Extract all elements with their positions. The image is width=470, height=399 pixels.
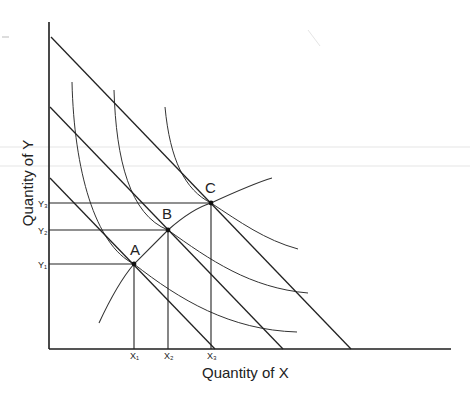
y-tick-2: Y₂ <box>38 226 48 236</box>
y-tick-3: Y₃ <box>38 199 48 209</box>
point-b-label: B <box>162 205 172 222</box>
point-b <box>166 228 171 233</box>
point-a-label: A <box>130 241 140 258</box>
x-axis-title: Quantity of X <box>202 364 289 381</box>
x-tick-2: X₂ <box>164 351 174 361</box>
x-tick-3: X₃ <box>207 351 217 361</box>
y-tick-1: Y₁ <box>38 260 47 270</box>
point-c <box>209 201 214 206</box>
y-axis-title: Quantity of Y <box>19 140 36 226</box>
indifference-curve-1 <box>72 82 297 332</box>
income-expansion-path <box>99 178 272 323</box>
x-tick-1: X₁ <box>130 351 139 361</box>
indifference-curve-3 <box>165 107 298 249</box>
indifference-curve-diagram: A B C X₁ X₂ X₃ Y₁ Y₂ Y₃ Quantity of X Qu… <box>0 0 470 399</box>
point-c-label: C <box>205 179 216 196</box>
budget-line-2 <box>50 107 283 349</box>
scan-artifact-stroke <box>308 30 320 46</box>
point-a <box>132 262 137 267</box>
budget-line-3 <box>51 37 351 349</box>
